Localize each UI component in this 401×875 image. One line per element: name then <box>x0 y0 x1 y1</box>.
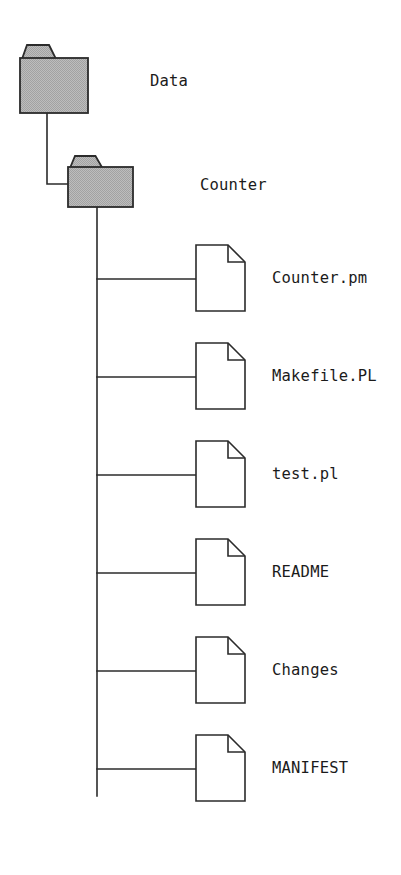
connector-root-to-counter <box>47 113 68 184</box>
file-label: Counter.pm <box>272 271 367 287</box>
file-icon-4 <box>196 637 245 703</box>
file-label: Makefile.PL <box>272 369 377 385</box>
file-label: README <box>272 565 329 581</box>
folder-icon-root-tab <box>22 45 56 59</box>
folder-label-root: Data <box>150 74 188 90</box>
tree-connectors <box>47 113 196 796</box>
file-icons <box>196 245 245 801</box>
file-label: test.pl <box>272 467 339 483</box>
file-label: Changes <box>272 663 339 679</box>
directory-tree-diagram: Data Counter Counter.pmMakefile.PLtest.p… <box>0 0 401 875</box>
file-label: MANIFEST <box>272 761 348 777</box>
file-icon-2 <box>196 441 245 507</box>
file-icon-1 <box>196 343 245 409</box>
folder-icon-counter-body <box>68 167 133 207</box>
folder-icons <box>20 45 133 207</box>
folder-icon-root-body <box>20 58 88 113</box>
file-icon-0 <box>196 245 245 311</box>
tree-graphics <box>0 0 401 875</box>
file-icon-5 <box>196 735 245 801</box>
file-icon-3 <box>196 539 245 605</box>
folder-label-counter: Counter <box>200 178 267 194</box>
